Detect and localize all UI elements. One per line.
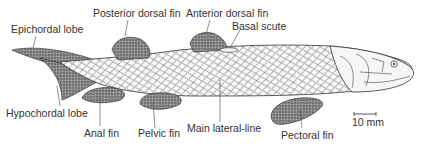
pelvic-fin-shape [140,93,181,109]
label-epichordal-lobe: Epichordal lobe [11,24,83,35]
label-hypochordal-lobe: Hypochordal lobe [6,108,88,119]
posterior-dorsal-fin-shape [112,37,150,60]
label-basal-scute: Basal scute [232,21,286,32]
label-posterior-dorsal-fin: Posterior dorsal fin [93,8,181,19]
fish-anatomy-diagram: Epichordal lobe Posterior dorsal fin Ant… [0,0,423,148]
label-anal-fin: Anal fin [84,128,119,139]
label-anterior-dorsal-fin: Anterior dorsal fin [186,8,268,19]
pectoral-fin-shape [271,98,322,125]
label-main-lateral-line: Main lateral-line [187,123,261,134]
scale-bar-label: 10 mm [352,117,384,128]
label-pectoral-fin: Pectoral fin [281,130,334,141]
basal-scute-shape [220,48,238,53]
label-pelvic-fin: Pelvic fin [138,128,180,139]
anal-fin-shape [82,87,125,102]
